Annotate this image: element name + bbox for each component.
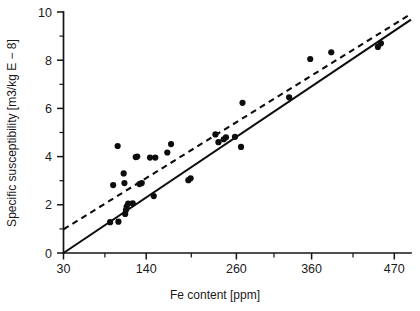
data-point	[121, 180, 127, 186]
data-point	[232, 134, 238, 140]
y-axis-tick-labels: 0 2 4 6 8 10	[38, 6, 52, 261]
y-tick-label: 4	[45, 150, 52, 164]
data-point	[328, 49, 334, 55]
y-tick-label: 2	[45, 198, 52, 212]
x-tick-label: 470	[384, 262, 405, 276]
data-point	[121, 170, 127, 176]
data-point	[307, 56, 313, 62]
x-axis-title: Fe content [ppm]	[170, 288, 260, 302]
x-tick-label: 30	[57, 262, 71, 276]
y-axis-title: Specific susceptibility [m3/kg E − 8]	[5, 39, 19, 227]
x-axis-major-ticks	[64, 253, 395, 260]
data-point	[223, 134, 229, 140]
scatter-plot-figure: 0 2 4 6 8 10 30 140 260 360 470 Fe conte…	[0, 0, 420, 311]
data-point	[151, 193, 157, 199]
x-axis-tick-labels: 30 140 260 360 470	[57, 262, 405, 276]
data-point	[239, 100, 245, 106]
data-point	[168, 141, 174, 147]
data-point	[286, 94, 292, 100]
data-point	[110, 182, 116, 188]
data-point	[164, 149, 170, 155]
data-point	[152, 154, 158, 160]
data-point	[139, 180, 145, 186]
data-point	[238, 144, 244, 150]
y-tick-label: 6	[45, 102, 52, 116]
chart-canvas: 0 2 4 6 8 10 30 140 260 360 470 Fe conte…	[0, 0, 420, 311]
data-point	[107, 219, 113, 225]
y-tick-label: 8	[45, 54, 52, 68]
dashed-fit-line	[64, 14, 412, 229]
data-point	[130, 200, 136, 206]
x-tick-label: 260	[226, 262, 247, 276]
y-tick-label: 0	[45, 247, 52, 261]
data-point	[115, 219, 121, 225]
data-point	[115, 143, 121, 149]
data-point	[134, 154, 140, 160]
data-point	[188, 175, 194, 181]
data-series-layer	[64, 14, 412, 253]
y-tick-label: 10	[38, 6, 52, 20]
data-point	[215, 139, 221, 145]
data-point	[212, 131, 218, 137]
x-tick-label: 140	[136, 262, 157, 276]
data-point	[378, 40, 384, 46]
x-tick-label: 360	[301, 262, 322, 276]
